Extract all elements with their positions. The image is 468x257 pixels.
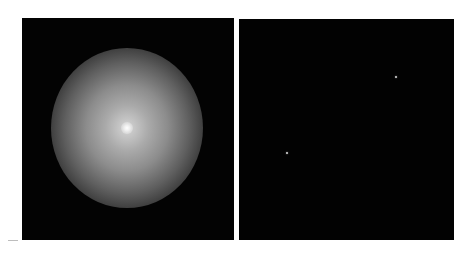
axis-tick-mark	[8, 240, 18, 241]
glow-core	[121, 122, 133, 134]
point-source-2	[286, 152, 288, 154]
right-image-panel	[239, 19, 454, 240]
point-source-1	[395, 76, 397, 78]
left-image-panel	[22, 18, 234, 240]
